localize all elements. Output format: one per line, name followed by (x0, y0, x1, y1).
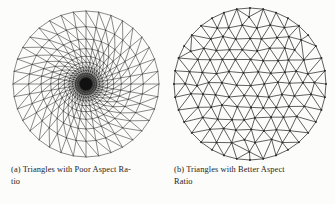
uniform-mesh-diagram (170, 0, 335, 166)
caption-a-text1: Triangles with Poor Aspect Ra- (23, 165, 131, 174)
panel-better-aspect-ratio (170, 0, 335, 166)
panel-poor-aspect-ratio (0, 0, 165, 166)
figure-root: (a) Triangles with Poor Aspect Ra- tio (… (0, 0, 335, 204)
caption-a-line2: tio (11, 176, 163, 188)
caption-b-line1: (b) Triangles with Better Aspect (174, 164, 324, 176)
radial-mesh-diagram (0, 0, 165, 166)
caption-b-line2: Ratio (174, 176, 324, 188)
caption-b-text1: Triangles with Better Aspect (186, 165, 285, 174)
caption-a-line1: (a) Triangles with Poor Aspect Ra- (11, 164, 163, 176)
figure-captions: (a) Triangles with Poor Aspect Ra- tio (… (0, 164, 335, 204)
caption-panel-a: (a) Triangles with Poor Aspect Ra- tio (11, 164, 163, 204)
caption-panel-b: (b) Triangles with Better Aspect Ratio (174, 164, 324, 204)
caption-a-tag: (a) (11, 165, 21, 174)
figure-panels (0, 0, 335, 166)
caption-b-tag: (b) (174, 165, 184, 174)
